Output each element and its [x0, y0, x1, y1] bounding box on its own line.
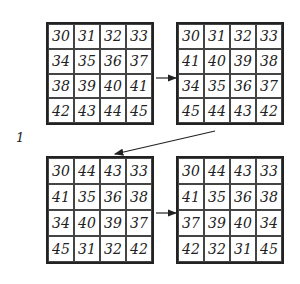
grid-cell: 31	[230, 236, 256, 262]
grid-cell: 33	[126, 158, 152, 184]
grid-cell: 32	[230, 24, 256, 49]
grid-cell: 30	[178, 158, 204, 184]
grid-2: 30313233414039383435363745444342	[176, 22, 284, 125]
grid-cell: 38	[256, 49, 282, 74]
grid-cell: 34	[48, 49, 74, 74]
grid-cell: 32	[100, 24, 126, 49]
grid-cell: 39	[204, 210, 230, 236]
arrow-2-to-3	[115, 131, 215, 154]
grid-cell: 37	[256, 74, 282, 99]
grid-1: 30313233343536373839404142434445	[46, 22, 154, 125]
grid-cell: 36	[230, 74, 256, 99]
grid-cell: 45	[178, 98, 204, 123]
grid-cell: 40	[204, 49, 230, 74]
grid-cell: 42	[126, 236, 152, 262]
grid-cell: 40	[74, 210, 100, 236]
grid-cell: 31	[74, 236, 100, 262]
grid-cell: 36	[100, 49, 126, 74]
grid-cell: 44	[204, 158, 230, 184]
grid-cell: 38	[256, 184, 282, 210]
grid-cell: 40	[100, 74, 126, 99]
grid-cell: 30	[48, 24, 74, 49]
grid-cell: 31	[204, 24, 230, 49]
grid-cell: 43	[74, 98, 100, 123]
grid-cell: 39	[100, 210, 126, 236]
grid-cell: 34	[48, 210, 74, 236]
grid-cell: 33	[126, 24, 152, 49]
grid-cell: 37	[126, 210, 152, 236]
grid-cell: 41	[178, 49, 204, 74]
grid-cell: 44	[100, 98, 126, 123]
grid-cell: 38	[48, 74, 74, 99]
grid-cell: 42	[178, 236, 204, 262]
grid-cell: 36	[230, 184, 256, 210]
grid-cell: 32	[204, 236, 230, 262]
figure-label: 1	[16, 130, 24, 145]
grid-cell: 30	[178, 24, 204, 49]
grid-cell: 39	[74, 74, 100, 99]
grid-cell: 42	[256, 98, 282, 123]
grid-cell: 44	[74, 158, 100, 184]
grid-cell: 33	[256, 158, 282, 184]
grid-cell: 30	[48, 158, 74, 184]
grid-cell: 45	[48, 236, 74, 262]
grid-cell: 34	[178, 74, 204, 99]
grid-cell: 37	[178, 210, 204, 236]
grid-cell: 37	[126, 49, 152, 74]
grid-cell: 35	[204, 74, 230, 99]
grid-cell: 35	[74, 184, 100, 210]
grid-cell: 34	[256, 210, 282, 236]
grid-cell: 38	[126, 184, 152, 210]
grid-3: 30444333413536383440393745313242	[46, 156, 154, 264]
grid-cell: 41	[178, 184, 204, 210]
grid-cell: 43	[230, 158, 256, 184]
grid-cell: 36	[100, 184, 126, 210]
grid-cell: 44	[204, 98, 230, 123]
grid-cell: 33	[256, 24, 282, 49]
grid-cell: 31	[74, 24, 100, 49]
grid-cell: 43	[100, 158, 126, 184]
grid-cell: 45	[126, 98, 152, 123]
grid-cell: 35	[74, 49, 100, 74]
grid-cell: 41	[126, 74, 152, 99]
grid-cell: 35	[204, 184, 230, 210]
grid-cell: 32	[100, 236, 126, 262]
grid-cell: 41	[48, 184, 74, 210]
grid-cell: 43	[230, 98, 256, 123]
grid-cell: 42	[48, 98, 74, 123]
grid-cell: 45	[256, 236, 282, 262]
grid-cell: 40	[230, 210, 256, 236]
grid-cell: 39	[230, 49, 256, 74]
grid-4: 30444333413536383739403442323145	[176, 156, 284, 264]
